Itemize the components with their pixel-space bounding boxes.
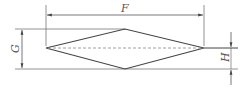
g-label: G xyxy=(9,44,22,53)
f-label: F xyxy=(120,2,129,15)
diamond-dimension-diagram: F G H xyxy=(0,0,247,90)
h-label: H xyxy=(219,52,232,63)
diamond-shape xyxy=(46,29,204,69)
